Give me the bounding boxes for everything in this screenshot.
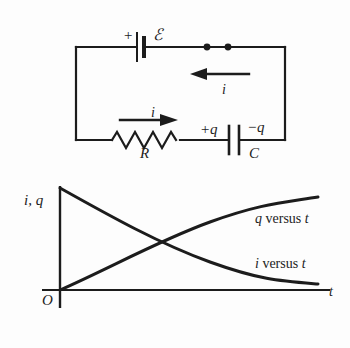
resistor-label: R — [140, 146, 149, 161]
curve-label-current-variable: t — [302, 256, 306, 271]
curve-label-charge-variable: t — [305, 211, 309, 226]
curve-label-charge-text: versus — [262, 211, 305, 226]
capacitor-label: C — [249, 146, 259, 161]
capacitor-negative-charge-label: −q — [247, 120, 265, 135]
current-label-bottom: i — [151, 106, 155, 120]
circuit-group — [76, 33, 285, 154]
battery-polarity-label: + — [124, 28, 132, 43]
switch-contact-right — [225, 44, 232, 51]
graph-group — [42, 186, 330, 308]
current-arrow-top-head — [190, 68, 207, 80]
curve-label-current: i versus t — [255, 257, 306, 271]
capacitor-positive-charge-label: +q — [200, 122, 218, 137]
rc-circuit-figure: + ℰ i i R +q −q C i, q O t q versus t i … — [0, 0, 350, 348]
curve-label-charge-symbol: q — [255, 211, 262, 226]
switch-contact-left — [204, 44, 211, 51]
curve-label-charge: q versus t — [255, 212, 309, 226]
current-arrow-bottom-head — [160, 114, 178, 126]
graph-origin-label: O — [42, 293, 53, 308]
graph-y-axis-label: i, q — [24, 193, 43, 208]
graph-x-axis-label: t — [329, 285, 333, 299]
current-label-top: i — [222, 83, 226, 97]
curve-label-current-text: versus — [259, 256, 302, 271]
battery-emf-label: ℰ — [153, 27, 163, 43]
